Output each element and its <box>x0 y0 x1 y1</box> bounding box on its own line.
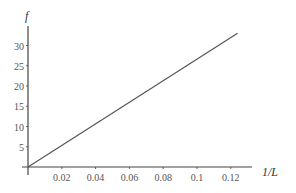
y-tick-label: 10 <box>14 122 24 133</box>
axes <box>22 26 252 175</box>
data-series <box>28 33 238 167</box>
y-tick-label: 20 <box>14 81 24 92</box>
y-tick-label: 30 <box>14 41 24 52</box>
x-tick-label: 0.04 <box>87 172 105 183</box>
x-tick-label: 0.02 <box>53 172 71 183</box>
x-tick-label: 0.08 <box>154 172 172 183</box>
y-tick-label: 5 <box>19 142 24 153</box>
x-tick-label: 0.06 <box>121 172 139 183</box>
y-tick-labels: 51015202530 <box>14 41 28 153</box>
data-line <box>28 33 238 167</box>
y-tick-label: 25 <box>14 61 24 72</box>
x-tick-label: 0.12 <box>222 172 240 183</box>
x-tick-labels: 0.020.040.060.080.10.12 <box>53 167 240 183</box>
x-tick-label: 0.1 <box>191 172 204 183</box>
y-axis-label: f <box>25 9 30 23</box>
x-axis-label: 1/L <box>262 165 278 179</box>
chart: 0.020.040.060.080.10.12 51015202530 f 1/… <box>0 0 296 193</box>
y-tick-label: 15 <box>14 101 24 112</box>
